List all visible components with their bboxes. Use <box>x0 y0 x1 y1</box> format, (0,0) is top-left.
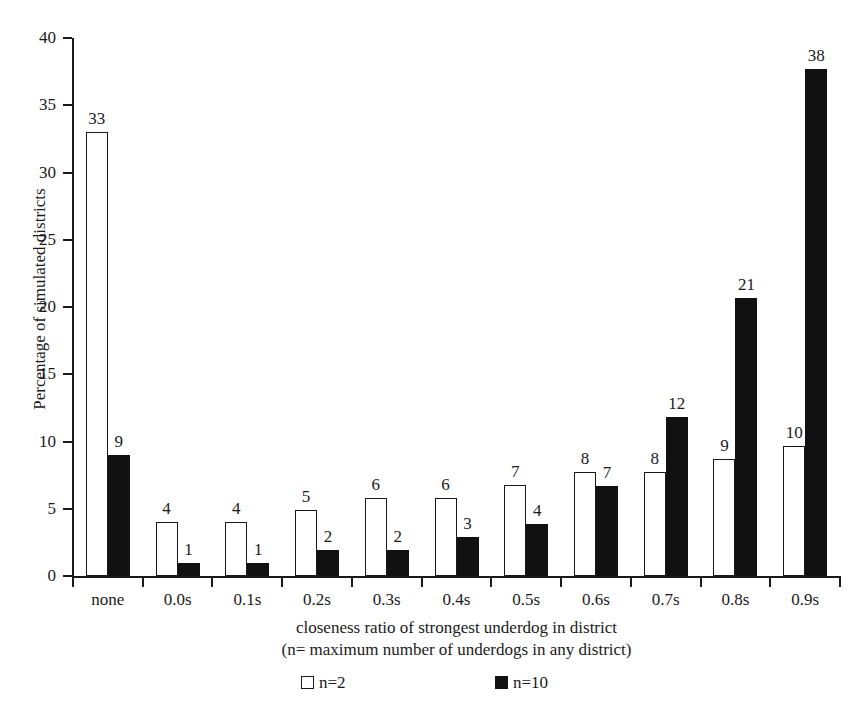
bar-value-label: 6 <box>359 476 393 493</box>
bar-value-label: 21 <box>729 276 763 293</box>
bar-n10-none <box>108 455 130 576</box>
bar-n10-0.8s <box>735 298 757 576</box>
y-tick-label: 0 <box>0 567 56 584</box>
y-tick-label: 10 <box>0 433 56 450</box>
legend-item-n2[interactable]: n=2 <box>301 674 346 691</box>
bar-value-label: 2 <box>381 528 415 545</box>
y-tick-label: 15 <box>0 365 56 382</box>
x-category-label: 0.7s <box>631 590 701 610</box>
bar-value-label: 6 <box>429 476 463 493</box>
bar-value-label: 7 <box>590 464 624 481</box>
bar-n2-none <box>86 132 108 576</box>
bar-n10-0.7s <box>666 417 688 576</box>
x-category-label: none <box>73 590 143 610</box>
y-tick-label: 30 <box>0 164 56 181</box>
x-tick-mark <box>281 578 283 587</box>
x-category-label: 0.1s <box>212 590 282 610</box>
bar-n2-0.5s <box>504 485 526 576</box>
bar-n10-0.3s <box>387 550 409 576</box>
bar-value-label: 5 <box>289 488 323 505</box>
bar-n10-0.1s <box>247 563 269 576</box>
y-tick-mark <box>63 104 72 106</box>
bar-value-label: 1 <box>241 541 275 558</box>
bar-chart-figure: Percentage of simulated districts 051015… <box>0 0 862 710</box>
bar-n10-0.5s <box>526 524 548 576</box>
y-tick-mark <box>63 373 72 375</box>
y-tick-mark <box>63 172 72 174</box>
bar-n2-0.7s <box>644 472 666 576</box>
legend-label-n10: n=10 <box>513 674 548 691</box>
bar-value-label: 4 <box>520 502 554 519</box>
x-category-label: 0.2s <box>282 590 352 610</box>
x-tick-mark <box>211 578 213 587</box>
bar-n10-0.4s <box>457 537 479 576</box>
x-tick-mark <box>560 578 562 587</box>
x-category-label: 0.3s <box>352 590 422 610</box>
bar-n2-0.4s <box>435 498 457 576</box>
bar-n10-0.9s <box>805 69 827 576</box>
bar-value-label: 1 <box>172 541 206 558</box>
x-category-label: 0.4s <box>422 590 492 610</box>
x-category-label: 0.0s <box>143 590 213 610</box>
bar-n2-0.6s <box>574 472 596 576</box>
y-tick-label: 35 <box>0 96 56 113</box>
x-tick-mark <box>142 578 144 587</box>
x-tick-mark <box>700 578 702 587</box>
x-category-label: 0.8s <box>700 590 770 610</box>
bar-value-label: 4 <box>219 500 253 517</box>
light-square-icon <box>301 676 314 689</box>
dark-square-icon <box>495 676 508 689</box>
bar-n2-0.8s <box>713 459 735 576</box>
bar-value-label: 12 <box>660 395 694 412</box>
y-tick-mark <box>63 37 72 39</box>
bar-value-label: 33 <box>80 110 114 127</box>
bar-value-label: 7 <box>498 463 532 480</box>
x-tick-mark <box>839 578 841 587</box>
x-tick-mark <box>421 578 423 587</box>
bar-value-label: 2 <box>311 528 345 545</box>
x-category-label: 0.9s <box>770 590 840 610</box>
y-axis-tick-labels: 0510152025303540 <box>0 0 60 710</box>
x-tick-mark <box>490 578 492 587</box>
chart-legend: n=2 n=10 <box>73 668 840 698</box>
x-axis-title-line2: (n= maximum number of underdogs in any d… <box>73 639 840 661</box>
y-tick-label: 25 <box>0 231 56 248</box>
bar-value-label: 38 <box>799 47 833 64</box>
x-axis-line <box>72 576 841 578</box>
x-category-label: 0.5s <box>491 590 561 610</box>
bar-n2-0.9s <box>783 446 805 576</box>
bar-n10-0.2s <box>317 550 339 576</box>
y-tick-mark <box>63 441 72 443</box>
legend-label-n2: n=2 <box>319 674 346 691</box>
x-category-label: 0.6s <box>561 590 631 610</box>
x-tick-mark <box>769 578 771 587</box>
bar-value-label: 3 <box>451 515 485 532</box>
bar-value-label: 9 <box>102 433 136 450</box>
y-tick-label: 5 <box>0 500 56 517</box>
y-tick-mark <box>63 508 72 510</box>
bar-value-label: 4 <box>150 500 184 517</box>
bar-n10-0.0s <box>178 563 200 576</box>
legend-item-n10[interactable]: n=10 <box>495 674 548 691</box>
x-tick-mark <box>630 578 632 587</box>
x-axis-title-line1: closeness ratio of strongest underdog in… <box>73 617 840 639</box>
y-tick-mark <box>63 575 72 577</box>
y-tick-label: 40 <box>0 29 56 46</box>
x-tick-mark <box>72 578 74 587</box>
y-tick-label: 20 <box>0 298 56 315</box>
y-tick-mark <box>63 239 72 241</box>
y-tick-mark <box>63 306 72 308</box>
bar-n10-0.6s <box>596 486 618 576</box>
y-axis-line <box>72 38 74 578</box>
x-axis-title: closeness ratio of strongest underdog in… <box>73 617 840 661</box>
x-tick-mark <box>351 578 353 587</box>
